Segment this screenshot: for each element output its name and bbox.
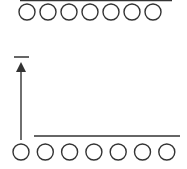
top-circle: [40, 4, 56, 20]
top-circle: [124, 4, 140, 20]
diagram-canvas: [0, 0, 187, 169]
arrow-head-icon: [16, 62, 26, 72]
bottom-circle: [86, 144, 102, 160]
bottom-circle: [62, 144, 78, 160]
bottom-circle: [13, 144, 29, 160]
top-circle: [19, 4, 35, 20]
bottom-circle: [110, 144, 126, 160]
up-arrow-icon: [16, 62, 26, 140]
bottom-circle: [135, 144, 151, 160]
bottom-row: [13, 136, 180, 160]
top-circle: [145, 4, 161, 20]
top-circle: [82, 4, 98, 20]
bottom-circle: [159, 144, 175, 160]
top-circle: [103, 4, 119, 20]
bottom-circle: [37, 144, 53, 160]
top-row: [19, 1, 172, 21]
top-circle: [61, 4, 77, 20]
